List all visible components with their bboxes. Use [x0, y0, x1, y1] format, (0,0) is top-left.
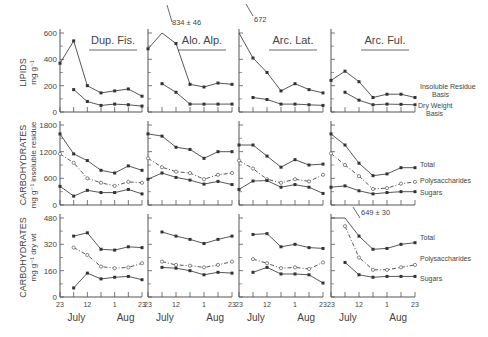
legend-polysaccharides-dry: Polysaccharides: [420, 255, 471, 263]
data-point: [308, 273, 311, 276]
y-tick-label: 0: [53, 201, 58, 210]
data-point: [400, 275, 403, 278]
data-point-open: [174, 170, 177, 173]
data-point: [400, 166, 403, 169]
data-point: [322, 104, 325, 107]
data-point: [330, 79, 333, 82]
data-point: [266, 155, 269, 158]
data-point: [175, 235, 178, 238]
month-label-aug: Aug: [206, 312, 224, 323]
data-point: [175, 146, 178, 149]
data-point: [175, 176, 178, 179]
axes-layer: [60, 29, 415, 297]
data-point: [358, 235, 361, 238]
data-point: [100, 91, 103, 94]
data-point: [266, 232, 269, 235]
panel-title: Arc. Lat.: [273, 34, 314, 46]
data-point: [113, 172, 116, 175]
labels-layer: 0200400600Dup. Fis.Alo. Alp.Arc. Lat.Arc…: [18, 4, 476, 323]
legend-sugars: Sugars: [420, 189, 443, 197]
data-point: [252, 271, 255, 274]
row-label-sub: mg g⁻¹: [29, 60, 38, 85]
data-point: [175, 42, 178, 45]
data-point: [344, 261, 347, 264]
data-point: [72, 152, 75, 155]
row-label-main: LIPIDS: [18, 58, 28, 87]
data-point: [217, 180, 220, 183]
data-point: [141, 169, 144, 172]
annotation-arrow: [246, 4, 253, 16]
data-point: [161, 172, 164, 175]
data-point: [266, 266, 269, 269]
panel-title: Dup. Fis.: [91, 34, 135, 46]
data-point: [147, 47, 150, 50]
data-point-open: [371, 187, 374, 190]
y-tick-label: 1200: [39, 148, 57, 157]
data-point-open: [188, 171, 191, 174]
data-point: [400, 243, 403, 246]
data-point: [72, 286, 75, 289]
data-point: [280, 166, 283, 169]
data-point: [231, 83, 234, 86]
data-point: [330, 132, 333, 135]
data-point-open: [279, 267, 282, 270]
series-line-total: [162, 232, 232, 244]
data-point: [113, 276, 116, 279]
series-line-total: [74, 233, 142, 250]
data-point: [294, 272, 297, 275]
data-point: [344, 91, 347, 94]
data-point: [344, 184, 347, 187]
y-tick-label: 600: [44, 29, 58, 38]
data-point: [414, 96, 417, 99]
data-point: [372, 276, 375, 279]
data-point: [86, 189, 89, 192]
series-line-dry-weight-basis: [345, 92, 415, 105]
data-point: [189, 238, 192, 241]
month-label-july: July: [156, 312, 174, 323]
data-point: [386, 93, 389, 96]
series-line-sugars: [345, 262, 415, 277]
data-point: [308, 186, 311, 189]
data-point: [344, 70, 347, 73]
data-point: [72, 39, 75, 42]
data-point-open: [174, 263, 177, 266]
data-point-open: [329, 152, 332, 155]
data-point: [161, 266, 164, 269]
data-point: [414, 241, 417, 244]
data-point: [252, 96, 255, 99]
x-tick-label: 23: [411, 301, 419, 308]
data-point-open: [216, 263, 219, 266]
data-point-open: [343, 163, 346, 166]
data-point-open: [357, 175, 360, 178]
data-point: [238, 144, 241, 147]
data-point-open: [385, 187, 388, 190]
figure: 0200400600Dup. Fis.Alo. Alp.Arc. Lat.Arc…: [0, 0, 488, 337]
legend-insoluble: Insoluble Residue: [420, 83, 476, 90]
data-point: [113, 89, 116, 92]
data-point: [252, 144, 255, 147]
data-point: [414, 166, 417, 169]
legend-total: Total: [420, 161, 435, 168]
data-point: [308, 103, 311, 106]
data-point: [322, 192, 325, 195]
data-point: [358, 189, 361, 192]
row-label-main: CARBOHYDRATES: [18, 125, 28, 205]
legend-total-dry: Total: [420, 234, 435, 241]
data-point-open: [399, 266, 402, 269]
data-point: [252, 57, 255, 60]
data-point: [59, 132, 62, 135]
legend-polysaccharides: Polysaccharides: [420, 177, 471, 185]
data-point: [217, 103, 220, 106]
legend-dry-basis: Basis: [426, 110, 444, 117]
data-point: [217, 150, 220, 153]
x-tick-label: 12: [83, 301, 91, 308]
data-point: [280, 186, 283, 189]
legend-insoluble-basis: Basis: [432, 91, 450, 98]
data-point-open: [293, 178, 296, 181]
panel-title: Alo. Alp.: [182, 34, 222, 46]
data-point: [217, 82, 220, 85]
x-tick-label: 1: [385, 301, 389, 308]
data-point-open: [399, 182, 402, 185]
data-point: [72, 235, 75, 238]
data-point: [127, 87, 130, 90]
